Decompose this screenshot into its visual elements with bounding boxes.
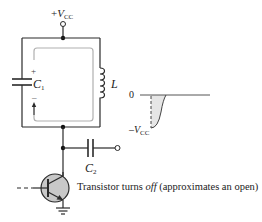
waveform-zero-label: 0 <box>129 90 134 100</box>
annotation-emphasis: off <box>145 181 156 192</box>
vcc-symbol: V <box>57 7 64 19</box>
annotation-text-after: (approximates an open) <box>157 181 259 192</box>
waveform-neg-vcc-label: –VCC <box>129 125 149 137</box>
annotation-text-before: Transistor turns <box>77 181 145 192</box>
capacitor-c1-symbol <box>12 79 32 85</box>
c1-minus-label: – <box>32 93 37 102</box>
transistor-annotation: Transistor turns off (approximates an op… <box>77 182 258 193</box>
waveform-graph <box>140 95 210 128</box>
current-arrow-icon <box>32 102 36 115</box>
c2-symbol: C <box>85 161 93 175</box>
collector-wire <box>61 125 65 178</box>
neg-vcc-subscript: CC <box>140 129 149 137</box>
c1-subscript: 1 <box>41 84 45 92</box>
vcc-subscript: CC <box>64 13 73 21</box>
inductor-label: L <box>111 78 118 90</box>
capacitor-c2-symbol <box>63 139 120 157</box>
c1-plus-label: + <box>31 67 36 76</box>
transistor-npn-symbol <box>17 172 69 202</box>
inductor-l-symbol <box>100 68 105 101</box>
c1-label: C1 <box>33 78 45 92</box>
c2-label: C2 <box>85 162 97 176</box>
vcc-terminal <box>61 22 66 41</box>
c2-subscript: 2 <box>93 168 97 176</box>
vcc-label: +VCC <box>51 8 73 21</box>
c1-symbol: C <box>33 77 41 91</box>
